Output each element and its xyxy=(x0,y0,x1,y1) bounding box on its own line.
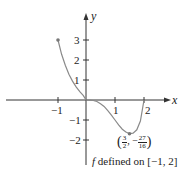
y-tick-label: 2 xyxy=(74,55,80,66)
y-tick-label: −1 xyxy=(69,115,81,126)
domain-caption: f defined on [−1, 2] xyxy=(92,155,177,167)
point-separator: , − xyxy=(127,135,138,146)
caption-text: defined on [−1, 2] xyxy=(95,155,177,167)
minimum-point-label: (32, −2716) xyxy=(117,134,151,150)
endpoint-marker xyxy=(56,38,60,42)
x-tick-label: 2 xyxy=(145,105,151,116)
frac-denominator: 16 xyxy=(138,143,147,150)
y-axis-label: y xyxy=(91,10,96,22)
y-tick-label: 3 xyxy=(74,35,80,46)
x-axis-arrow-icon xyxy=(164,98,171,103)
y-tick-label: 1 xyxy=(74,75,80,86)
x-tick-label: −1 xyxy=(51,105,63,116)
function-plot xyxy=(0,0,184,175)
y-axis-arrow-icon xyxy=(84,13,89,20)
x-tick-label: 1 xyxy=(113,105,119,116)
x-axis-label: x xyxy=(172,94,177,106)
y-tick-label: −2 xyxy=(69,135,81,146)
